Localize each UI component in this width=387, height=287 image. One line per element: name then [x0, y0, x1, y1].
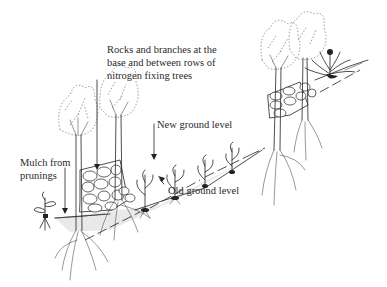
old-ground-label: Old ground level	[168, 184, 239, 197]
crop-plant	[305, 49, 355, 79]
rocks-label: Rocks and branches at the base and betwe…	[107, 43, 217, 82]
rock-wall-left	[80, 160, 135, 212]
agroforestry-terrace-diagram: Rocks and branches at the base and betwe…	[0, 0, 387, 287]
nitrogen-fixing-tree	[289, 12, 326, 160]
annotation-arrow	[158, 176, 165, 184]
new-ground-label: New ground level	[157, 118, 232, 131]
crop-plant	[226, 142, 240, 174]
seedling	[34, 192, 56, 230]
mulch-label: Mulch from prunings	[20, 156, 70, 182]
